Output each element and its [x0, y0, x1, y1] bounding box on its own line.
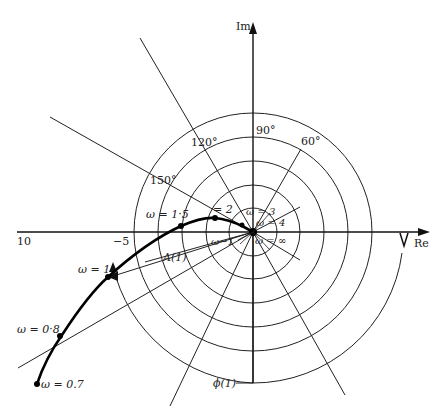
label-omega-0-7: ω = 0.7: [41, 379, 84, 390]
label-omega-2: = 2: [213, 204, 233, 215]
label-omega-4: ω = 4: [256, 218, 285, 228]
polar-plot: Im Re 10 −5 90° 60° 120° 150° ω = 0.7 ω …: [0, 0, 442, 419]
tick-label-minus-5: −5: [113, 236, 129, 247]
label-omega-1-5: ω = 1·5: [146, 209, 189, 220]
angle-label-150: 150°: [150, 175, 177, 186]
label-omega-0-8: ω = 0·8: [17, 324, 60, 335]
imag-axis-label: Im: [236, 21, 251, 32]
magnitude-annotation: A(1): [163, 252, 187, 263]
label-omega-infinity: ω = ∞: [255, 236, 286, 246]
label-omega-1: ω = 1: [78, 264, 110, 275]
angle-label-120: 120°: [191, 137, 218, 148]
tick-label-minus-10: 10: [17, 236, 31, 247]
label-omega-minus-1: ω−1: [211, 237, 234, 247]
angle-label-60: 60°: [301, 136, 321, 147]
label-omega-3: ω = 3: [246, 207, 275, 217]
angle-label-90: 90°: [256, 125, 276, 136]
phase-annotation: ϕ(1): [213, 378, 236, 389]
real-axis-label: Re: [414, 238, 429, 249]
